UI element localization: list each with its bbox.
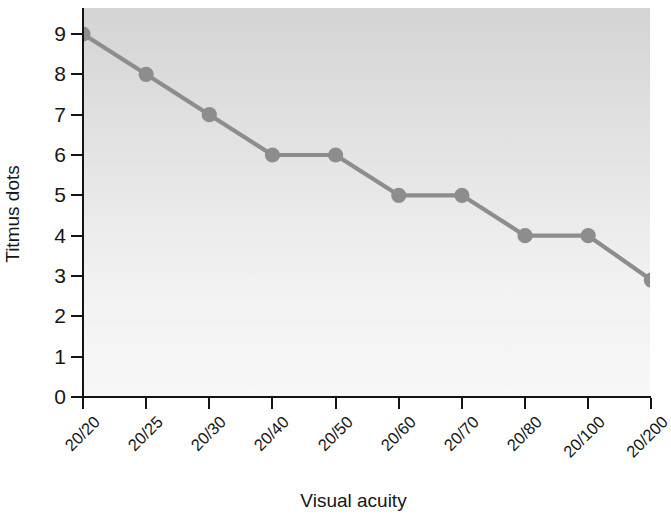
- y-tick-mark: [71, 235, 82, 237]
- y-tick-label: 3: [22, 265, 66, 286]
- data-point-marker: [328, 147, 343, 162]
- data-point-marker: [454, 188, 469, 203]
- y-tick-mark: [71, 396, 82, 398]
- x-tick-mark: [145, 398, 147, 409]
- data-point-marker: [265, 147, 280, 162]
- data-point-marker: [139, 67, 154, 82]
- y-axis-title: Titmus dots: [3, 154, 23, 274]
- y-tick-label: 2: [22, 305, 66, 326]
- x-tick-mark: [650, 398, 652, 409]
- x-tick-mark: [271, 398, 273, 409]
- data-line: [83, 34, 650, 280]
- data-point-marker: [581, 228, 596, 243]
- line-chart-svg: [83, 8, 650, 397]
- data-point-marker: [391, 188, 406, 203]
- y-tick-mark: [71, 73, 82, 75]
- y-tick-mark: [71, 315, 82, 317]
- y-tick-label: 5: [22, 184, 66, 205]
- x-axis-title-text: Visual acuity: [300, 491, 406, 511]
- y-tick-mark: [71, 356, 82, 358]
- plot-area: [83, 8, 650, 397]
- y-tick-mark: [71, 194, 82, 196]
- x-tick-mark: [82, 398, 84, 409]
- x-tick-mark: [208, 398, 210, 409]
- x-axis-line: [82, 396, 651, 398]
- y-tick-mark: [71, 33, 82, 35]
- x-tick-mark: [461, 398, 463, 409]
- y-tick-label: 1: [22, 346, 66, 367]
- y-axis-line: [82, 8, 84, 398]
- y-tick-label: 6: [22, 144, 66, 165]
- x-tick-mark: [524, 398, 526, 409]
- x-axis-title: Visual acuity: [0, 491, 655, 511]
- y-tick-mark: [71, 154, 82, 156]
- x-tick-mark: [335, 398, 337, 409]
- x-tick-mark: [398, 398, 400, 409]
- y-tick-label: 7: [22, 104, 66, 125]
- y-tick-label: 4: [22, 225, 66, 246]
- y-tick-mark: [71, 275, 82, 277]
- y-tick-mark: [71, 114, 82, 116]
- data-point-marker: [517, 228, 532, 243]
- y-tick-label: 8: [22, 63, 66, 84]
- y-tick-label: 0: [22, 386, 66, 407]
- y-tick-label: 9: [22, 23, 66, 44]
- data-point-marker: [202, 107, 217, 122]
- x-tick-mark: [587, 398, 589, 409]
